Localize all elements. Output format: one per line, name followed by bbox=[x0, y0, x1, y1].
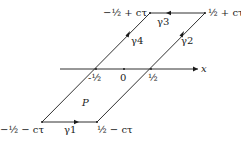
parallelogram bbox=[42, 13, 205, 122]
gamma4-label: γ4 bbox=[131, 35, 143, 46]
region-label: P bbox=[81, 97, 89, 108]
vertex-dots bbox=[41, 12, 206, 123]
arrow-left-icon bbox=[166, 11, 171, 15]
tick-pos-half: ½ bbox=[148, 72, 158, 83]
contour-diagram: x γ1 γ2 γ3 γ4 P -½ 0 ½ bbox=[0, 0, 241, 143]
vertex-bottom-left-label: −½ − cτ bbox=[0, 124, 44, 135]
tick-neg-half: -½ bbox=[88, 72, 101, 83]
gamma2-label: γ2 bbox=[181, 35, 193, 46]
gamma3-label: γ3 bbox=[157, 16, 169, 27]
tick-zero: 0 bbox=[120, 72, 126, 83]
origin-dot bbox=[123, 68, 125, 70]
x-axis-label: x bbox=[201, 63, 207, 74]
x-axis: x bbox=[60, 63, 207, 74]
gamma1-label: γ1 bbox=[64, 124, 76, 135]
vertex-top-right-label: ½ + cτ bbox=[208, 7, 241, 18]
vertex-top-left-label: −½ + cτ bbox=[103, 7, 147, 18]
edge-gamma2 bbox=[97, 13, 205, 122]
direction-arrows bbox=[74, 11, 184, 124]
edge-gamma4 bbox=[42, 13, 150, 122]
vertex-bottom-right-label: ½ − cτ bbox=[97, 124, 133, 135]
